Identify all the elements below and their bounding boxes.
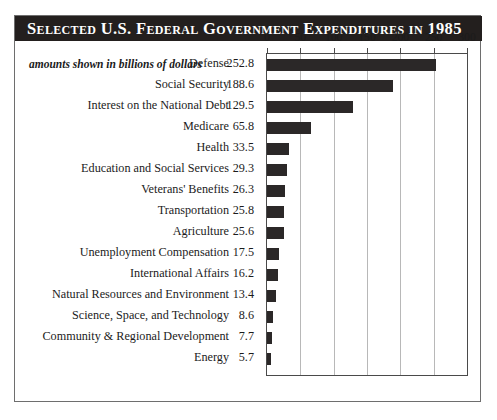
bar [267, 80, 393, 92]
category-label: Science, Space, and Technology [72, 305, 229, 326]
gridline [400, 54, 401, 375]
bar [267, 311, 273, 323]
bar [267, 122, 311, 134]
value-label: 26.3 [214, 179, 254, 200]
value-label: 188.6 [214, 74, 254, 95]
x-axis-tick-label: 200 [392, 31, 409, 44]
value-label: 5.7 [214, 347, 254, 368]
x-axis-tick-label: 100 [325, 31, 342, 44]
category-label: Natural Resources and Environment [52, 284, 229, 305]
x-axis-tick-label: 50 [295, 31, 307, 44]
bar [267, 101, 353, 113]
bar [267, 332, 272, 344]
value-label: 8.6 [214, 305, 254, 326]
category-label: Unemployment Compensation [80, 242, 229, 263]
x-axis-tick-label: 0 [264, 31, 270, 44]
value-label: 25.6 [214, 221, 254, 242]
bar [267, 206, 284, 218]
x-axis-tick-label: 150 [358, 31, 375, 44]
value-label: 25.8 [214, 200, 254, 221]
figure-frame: Selected U.S. Federal Government Expendi… [14, 15, 481, 402]
chart-body: 050100150200250300 Defense252.8Social Se… [15, 41, 482, 402]
gridline [434, 54, 435, 375]
bar [267, 248, 279, 260]
plot-area [266, 53, 468, 376]
x-axis-tick-label: 250 [425, 31, 442, 44]
value-label: 129.5 [214, 95, 254, 116]
category-label: Community & Regional Development [42, 326, 229, 347]
bar [267, 290, 276, 302]
category-label: Interest on the National Debt [88, 95, 229, 116]
value-label: 65.8 [214, 116, 254, 137]
value-label: 33.5 [214, 137, 254, 158]
chart-title-bar: Selected U.S. Federal Government Expendi… [15, 16, 482, 41]
bar [267, 269, 278, 281]
value-label: 16.2 [214, 263, 254, 284]
value-label: 7.7 [214, 326, 254, 347]
value-label: 17.5 [214, 242, 254, 263]
x-axis-tick-label: 300 [458, 31, 475, 44]
bar [267, 59, 436, 71]
value-label: 29.3 [214, 158, 254, 179]
bar [267, 164, 287, 176]
category-label: Education and Social Services [81, 158, 229, 179]
value-label: 252.8 [214, 53, 254, 74]
bar [267, 143, 289, 155]
bar [267, 227, 284, 239]
x-axis: 050100150200250300 [266, 41, 468, 53]
bar [267, 353, 271, 365]
value-label: 13.4 [214, 284, 254, 305]
gridline [367, 54, 368, 375]
bar [267, 185, 285, 197]
